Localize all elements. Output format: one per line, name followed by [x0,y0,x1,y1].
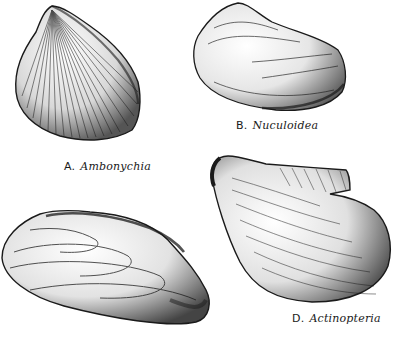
panel-letter-a: A. [64,160,75,173]
panel-letter-b: B. [236,119,247,132]
label-panel-b: B.Nuculoidea [236,119,318,132]
shell-c-unlabeled [2,211,209,324]
panel-letter-d: D. [292,312,304,325]
genus-name-d: Actinopteria [309,312,380,325]
shell-a-ambonychia [16,6,140,140]
shell-b-nuculoidea [194,3,346,110]
label-panel-d: D.Actinopteria [292,312,381,325]
genus-name-a: Ambonychia [80,160,151,173]
label-panel-a: A.Ambonychia [64,160,151,173]
genus-name-b: Nuculoidea [252,119,318,132]
shell-illustrations [0,0,407,337]
fossil-bivalve-plate: A.Ambonychia B.Nuculoidea D.Actinopteria [0,0,407,337]
shell-d-actinopteria [212,156,391,302]
